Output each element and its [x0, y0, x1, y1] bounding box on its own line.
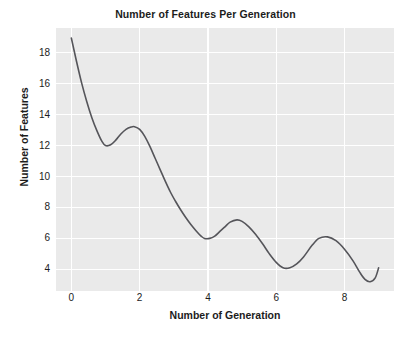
- chart-title: Number of Features Per Generation: [0, 8, 411, 20]
- x-axis-tick-label: 4: [188, 293, 228, 303]
- x-axis-tick-label: 0: [51, 293, 91, 303]
- x-axis-tick-label: 8: [324, 293, 364, 303]
- data-line-series: [56, 28, 394, 291]
- x-axis-tick-label: 2: [120, 293, 160, 303]
- chart-figure: Number of Features Per Generation 468101…: [0, 0, 411, 342]
- plot-area: [56, 28, 394, 291]
- x-axis-tick-labels: 02468: [56, 293, 394, 309]
- y-axis-tick-label: 6: [2, 233, 50, 243]
- series-line-path: [71, 38, 378, 282]
- y-axis-tick-label: 4: [2, 264, 50, 274]
- y-axis-title: Number of Features: [18, 57, 30, 217]
- x-axis-tick-label: 6: [256, 293, 296, 303]
- x-axis-title: Number of Generation: [56, 309, 394, 321]
